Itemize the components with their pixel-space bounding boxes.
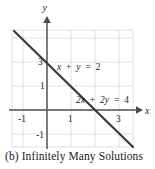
svg-text:2x + 2y: 2x + 2y = 4 — [76, 95, 129, 105]
y-tick-label-1: 1 — [40, 81, 45, 91]
coordinate-plane-svg: x y -1 1 3 3 1 -1 x + y = 2 2x + 2y — [0, 0, 155, 149]
x-axis-arrowhead-icon — [136, 106, 143, 114]
eq2-plus: + — [90, 95, 95, 105]
x-axis-label: x — [144, 105, 150, 116]
figure-caption: (b) Infinitely Many Solutions — [5, 150, 155, 162]
graph-line-coincident — [14, 31, 133, 147]
graph-figure: x y -1 1 3 3 1 -1 x + y = 2 2x + 2y — [0, 0, 155, 149]
equation-label-2: 2x + 2y = 4 — [76, 95, 129, 105]
x-axis — [9, 106, 143, 114]
eq1-term-x: x — [56, 62, 62, 72]
x-tick-label-neg1: -1 — [18, 114, 26, 124]
y-axis-arrowhead-icon — [43, 16, 51, 23]
x-tick-label-3: 3 — [116, 114, 121, 124]
eq1-term-y: y — [75, 62, 81, 72]
eq1-plus: + — [66, 62, 71, 72]
y-tick-label-neg1: -1 — [36, 130, 44, 140]
y-axis-label: y — [42, 2, 48, 13]
eq1-rhs: 2 — [96, 62, 101, 72]
x-tick-label-1: 1 — [68, 114, 73, 124]
eq2-term-2x: 2x — [76, 95, 86, 105]
eq1-equals: = — [85, 62, 90, 72]
eq2-equals: = — [114, 95, 119, 105]
eq2-rhs: 4 — [124, 95, 129, 105]
svg-text:x + y: x + y = 2 — [56, 62, 101, 72]
equation-label-1: x + y = 2 — [56, 62, 101, 72]
eq2-term-2y: 2y — [100, 95, 110, 105]
